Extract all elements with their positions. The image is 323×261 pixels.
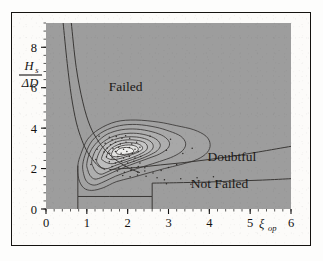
data-point xyxy=(156,177,158,179)
y-axis-denominator: ΔD xyxy=(21,76,38,90)
data-point xyxy=(131,167,133,169)
x-tick-label: 1 xyxy=(84,216,90,230)
y-axis-numerator: H xyxy=(23,59,34,73)
data-point xyxy=(166,150,168,152)
data-point xyxy=(90,164,92,166)
data-point xyxy=(111,166,113,168)
data-point xyxy=(144,167,146,169)
data-point xyxy=(129,176,131,178)
data-point xyxy=(180,178,182,180)
x-tick-label: 5 xyxy=(247,216,253,230)
data-point xyxy=(115,136,117,138)
y-tick-label: 2 xyxy=(31,162,37,176)
data-point xyxy=(138,151,140,153)
data-point xyxy=(98,135,100,137)
data-point xyxy=(137,171,139,173)
data-point xyxy=(123,148,125,150)
x-axis-label: ξ op xyxy=(259,217,277,233)
y-axis-numerator-subscript: s xyxy=(35,65,39,75)
data-point xyxy=(168,167,170,169)
data-point xyxy=(160,170,162,172)
data-point xyxy=(104,143,106,145)
x-tick-label: 3 xyxy=(165,216,171,230)
data-point xyxy=(109,161,111,163)
x-axis-subscript: op xyxy=(268,223,277,233)
data-point xyxy=(152,172,154,174)
x-tick-label: 0 xyxy=(43,216,49,230)
data-point xyxy=(139,162,141,164)
data-point xyxy=(122,175,124,177)
data-point xyxy=(136,142,138,144)
data-point xyxy=(137,174,139,176)
data-point xyxy=(121,137,123,139)
data-point xyxy=(144,170,146,172)
y-tick-label: 8 xyxy=(31,41,37,55)
data-point xyxy=(129,137,131,139)
data-point xyxy=(176,164,178,166)
data-point xyxy=(125,135,127,137)
data-point xyxy=(115,151,117,153)
data-point xyxy=(139,147,141,149)
data-point xyxy=(129,156,131,158)
contour-chart: 012345602468 FailedDoubtfulNot Failed H … xyxy=(12,13,309,244)
data-point xyxy=(134,157,136,159)
data-point xyxy=(140,156,142,158)
data-point xyxy=(103,151,105,153)
y-tick-label: 0 xyxy=(31,203,37,217)
data-point xyxy=(182,153,184,155)
data-point xyxy=(107,147,109,149)
data-point xyxy=(120,143,122,145)
data-point xyxy=(134,148,136,150)
data-point xyxy=(123,157,125,159)
data-point xyxy=(138,166,140,168)
data-point xyxy=(170,139,172,141)
figure-root: 012345602468 FailedDoubtfulNot Failed H … xyxy=(0,0,323,261)
x-tick-label: 2 xyxy=(125,216,131,230)
data-point xyxy=(149,135,151,137)
data-point xyxy=(120,152,122,154)
data-point xyxy=(124,171,126,173)
data-point xyxy=(117,170,119,172)
data-point xyxy=(126,151,128,153)
x-axis-symbol: ξ xyxy=(259,217,265,231)
data-point xyxy=(115,162,117,164)
data-point xyxy=(110,144,112,146)
data-point xyxy=(133,161,135,163)
region-label: Not Failed xyxy=(191,176,249,191)
data-point xyxy=(117,156,119,158)
data-point xyxy=(115,142,117,144)
data-point xyxy=(132,152,134,154)
data-point xyxy=(95,159,97,161)
data-point xyxy=(118,167,120,169)
region-label: Failed xyxy=(109,79,143,94)
data-point xyxy=(145,176,147,178)
data-point xyxy=(130,170,132,172)
data-point xyxy=(164,179,166,181)
data-point xyxy=(111,139,113,141)
data-point xyxy=(124,165,126,167)
data-point xyxy=(121,161,123,163)
data-point xyxy=(109,136,111,138)
data-point xyxy=(106,156,108,158)
data-point xyxy=(129,147,131,149)
data-point xyxy=(118,146,120,148)
data-point xyxy=(191,148,193,150)
y-tick-label: 4 xyxy=(31,122,38,136)
data-point xyxy=(125,142,127,144)
data-point xyxy=(131,143,133,145)
data-point xyxy=(127,162,129,164)
x-tick-label: 4 xyxy=(206,216,213,230)
data-point xyxy=(111,157,113,159)
data-point xyxy=(112,148,114,150)
figure-border: 012345602468 FailedDoubtfulNot Failed H … xyxy=(11,12,311,246)
data-point xyxy=(96,149,98,151)
data-point xyxy=(166,183,168,185)
region-label: Doubtful xyxy=(207,149,256,164)
data-point xyxy=(109,152,111,154)
x-tick-label: 6 xyxy=(288,216,294,230)
y-axis-label: H s ΔD xyxy=(19,59,42,90)
